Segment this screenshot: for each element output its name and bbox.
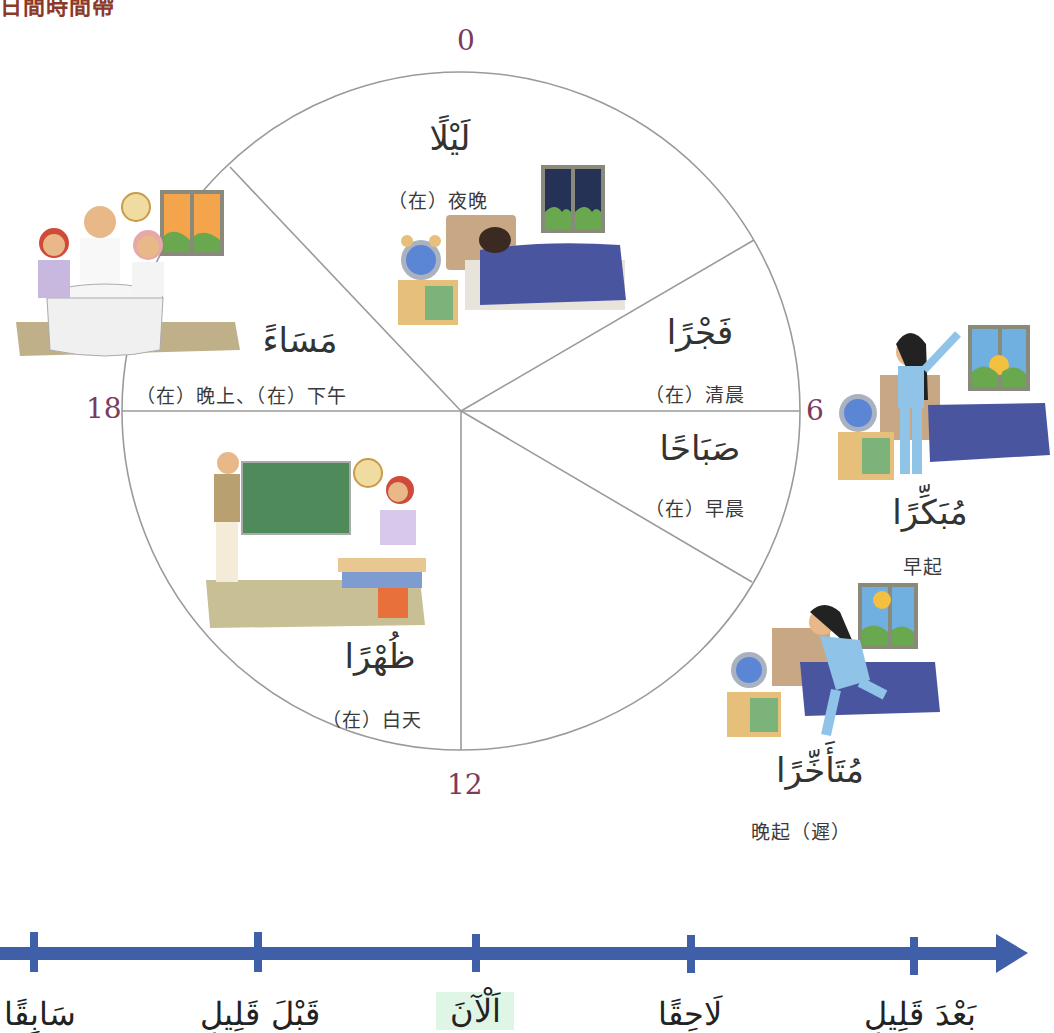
hour-label-0: 0 bbox=[457, 24, 475, 57]
timeline-label-shortly-before: قَبْلَ قَلِيلٍ bbox=[200, 995, 320, 1033]
hour-label-12: 12 bbox=[447, 768, 483, 801]
morning-arabic: صَبَاحًا bbox=[650, 428, 750, 468]
evening-arabic: مَسَاءً bbox=[240, 320, 360, 360]
noon-illustration bbox=[206, 452, 426, 628]
evening-illustration bbox=[16, 190, 240, 356]
early-arabic: مُبَكِّرًا bbox=[870, 492, 990, 532]
noon-chinese: （在）白天 bbox=[322, 705, 422, 732]
noon-arabic: ظُهْرًا bbox=[330, 636, 430, 676]
hour-label-18: 18 bbox=[86, 392, 122, 425]
timeline-label-previously: سَابِقًا bbox=[0, 995, 85, 1033]
late-illustration bbox=[727, 583, 940, 737]
timeline-label-shortly-after: بَعْدَ قَلِيلٍ bbox=[850, 995, 990, 1033]
timeline-label-now: اَلْآنَ bbox=[436, 992, 514, 1030]
early-illustration bbox=[838, 325, 1050, 480]
late-arabic: مُتَأَخِّرًا bbox=[750, 750, 890, 790]
dawn-arabic: فَجْرًا bbox=[650, 312, 750, 352]
night-chinese: （在）夜晚 bbox=[388, 186, 488, 213]
timeline-label-later: لَاحِقًا bbox=[640, 995, 740, 1033]
early-chinese: 早起 bbox=[903, 552, 943, 579]
evening-chinese: （在）晚上、（在）下午 bbox=[136, 381, 347, 408]
dawn-chinese: （在）清晨 bbox=[645, 380, 745, 407]
hour-label-6: 6 bbox=[806, 394, 824, 427]
night-arabic: لَيْلًا bbox=[400, 118, 500, 158]
timeline-arrow bbox=[0, 932, 1028, 975]
morning-chinese: （在）早晨 bbox=[645, 494, 745, 521]
late-chinese: 晚起（遲） bbox=[751, 817, 851, 844]
